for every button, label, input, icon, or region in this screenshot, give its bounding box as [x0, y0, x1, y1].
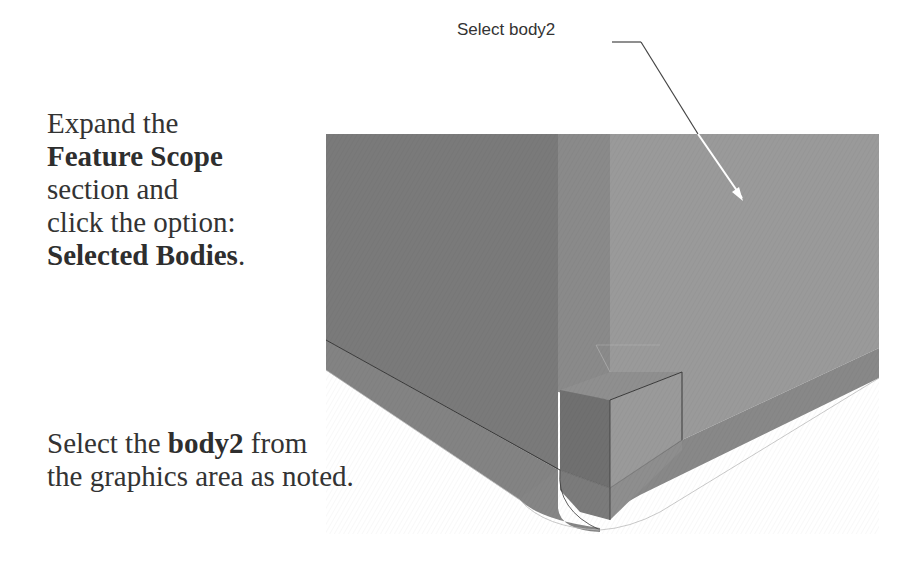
- graphics-area[interactable]: [0, 0, 919, 580]
- fillet-strip: [558, 134, 610, 400]
